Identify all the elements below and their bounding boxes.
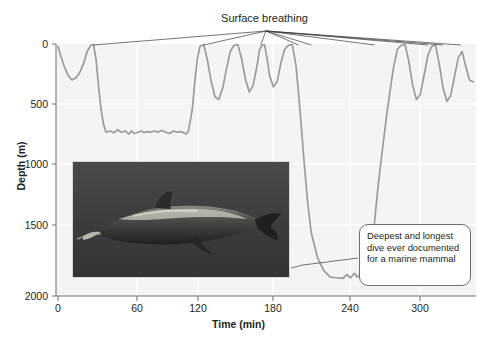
y-tick-1500: 1500	[6, 219, 48, 231]
y-tick-2000: 2000	[6, 290, 48, 302]
y-tick-1000: 1000	[6, 158, 48, 170]
leader-line	[204, 31, 266, 45]
x-tick-0: 0	[44, 302, 72, 314]
leader-line	[93, 31, 266, 45]
surface-breathing-leader-lines	[93, 31, 460, 45]
leader-line	[266, 31, 461, 45]
x-tick-marks	[58, 296, 420, 301]
y-tick-0: 0	[6, 38, 48, 50]
leader-line	[261, 31, 266, 45]
beaked-whale-photo	[72, 161, 290, 278]
x-tick-180: 180	[259, 302, 287, 314]
y-axis-title: Depth (m)	[15, 131, 27, 201]
x-tick-240: 240	[336, 302, 364, 314]
x-tick-60: 60	[123, 302, 151, 314]
deepest-dive-callout: Deepest and longest dive ever documented…	[359, 224, 471, 286]
x-axis-title: Time (min)	[0, 318, 477, 330]
surface-breathing-label: Surface breathing	[221, 12, 308, 24]
dive-profile-figure: 0 500 1000 1500 2000 0 60 120 180 240 30…	[0, 0, 477, 340]
y-tick-500: 500	[6, 98, 48, 110]
surface-breathing-annotation: Surface breathing	[0, 12, 477, 24]
y-tick-marks	[52, 44, 56, 296]
photo-contents	[73, 162, 289, 277]
x-tick-120: 120	[184, 302, 212, 314]
x-tick-300: 300	[406, 302, 434, 314]
